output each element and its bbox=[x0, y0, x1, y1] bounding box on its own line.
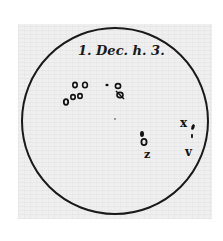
caption: 1. Dec. h. 3. bbox=[78, 43, 165, 58]
label-v: v bbox=[184, 145, 193, 159]
sunspot-drawing: 1. Dec. h. 3. x z v bbox=[0, 0, 223, 241]
spot-group-right-lower bbox=[140, 131, 147, 145]
spot-group-center bbox=[105, 84, 124, 120]
label-z: z bbox=[144, 148, 150, 161]
spot-group-left bbox=[64, 82, 88, 105]
label-x: x bbox=[180, 116, 188, 130]
spot-group-right-edge bbox=[191, 124, 196, 138]
